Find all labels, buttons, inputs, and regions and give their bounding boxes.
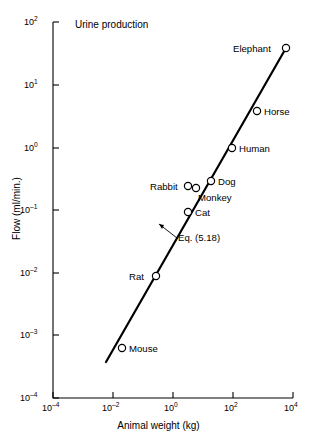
x-axis-ticks — [53, 392, 293, 398]
point-label-mouse: Mouse — [129, 343, 158, 354]
eq-annotation-leader — [159, 224, 177, 238]
marker-human — [228, 144, 235, 151]
equation-annotation: Eq. (5.18) — [178, 232, 220, 243]
x-tick-label-1em2: 10–2 — [102, 403, 119, 413]
marker-cat — [184, 208, 191, 215]
marker-rabbit — [184, 182, 191, 189]
x-tick-label-1e0: 100 — [164, 403, 178, 413]
axis-spines — [53, 22, 293, 398]
y-axis-label: Flow (ml/min.) — [11, 149, 22, 269]
marker-elephant — [282, 44, 289, 51]
x-tick-label-1e4: 104 — [284, 403, 298, 413]
point-label-dog: Dog — [218, 176, 236, 187]
y-tick-label-1em2: 10–2 — [20, 268, 37, 278]
point-label-monkey: Monkey — [198, 192, 232, 203]
y-axis-ticks — [53, 22, 59, 398]
fit-line-eq-518 — [106, 48, 286, 362]
y-tick-label-1e0: 100 — [24, 143, 38, 153]
urine-production-figure: Urine production 102 101 100 10–1 10–2 1… — [0, 0, 317, 441]
chart-title: Urine production — [75, 19, 148, 30]
y-tick-label-1em4: 10–4 — [20, 393, 37, 403]
plot-canvas — [0, 0, 317, 441]
point-label-rat: Rat — [129, 271, 144, 282]
x-axis-label: Animal weight (kg) — [0, 420, 317, 431]
marker-mouse — [118, 344, 125, 351]
marker-monkey — [192, 184, 199, 191]
marker-horse — [253, 107, 260, 114]
point-label-rabbit: Rabbit — [150, 181, 178, 192]
point-label-horse: Horse — [264, 106, 290, 117]
point-label-cat: Cat — [195, 207, 210, 218]
point-label-elephant: Elephant — [233, 43, 271, 54]
x-tick-label-1e2: 102 — [224, 403, 238, 413]
y-tick-label-1em3: 10–3 — [20, 330, 37, 340]
marker-rat — [152, 272, 159, 279]
point-label-human: Human — [239, 143, 270, 154]
marker-dog — [207, 177, 214, 184]
y-tick-label-1em1: 10–1 — [20, 205, 37, 215]
y-tick-label-1e1: 101 — [24, 80, 38, 90]
x-tick-label-1em4: 10–4 — [42, 403, 59, 413]
y-tick-label-1e2: 102 — [24, 17, 38, 27]
